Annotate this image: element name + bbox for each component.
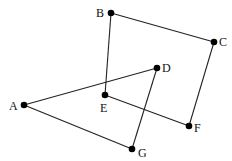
- node-label-c: C: [219, 35, 227, 49]
- node-label-g: G: [138, 146, 147, 160]
- node-b: [108, 10, 115, 17]
- node-label-b: B: [96, 6, 104, 20]
- node-a: [21, 102, 28, 109]
- edge-a-d: [24, 68, 157, 105]
- node-c: [211, 39, 218, 46]
- node-g: [129, 146, 136, 153]
- node-d: [154, 65, 161, 72]
- edge-d-g: [132, 68, 157, 149]
- edge-b-c: [111, 13, 214, 42]
- labels: ABCDEFG: [9, 6, 227, 160]
- node-label-d: D: [162, 61, 171, 75]
- node-f: [186, 123, 193, 130]
- node-e: [102, 92, 109, 99]
- edges: [24, 13, 214, 149]
- edge-a-g: [24, 105, 132, 149]
- nodes: [21, 10, 218, 153]
- node-label-e: E: [100, 101, 107, 115]
- node-label-f: F: [194, 121, 201, 135]
- graph-diagram: ABCDEFG: [0, 0, 232, 161]
- node-label-a: A: [9, 99, 18, 113]
- edge-c-f: [189, 42, 214, 126]
